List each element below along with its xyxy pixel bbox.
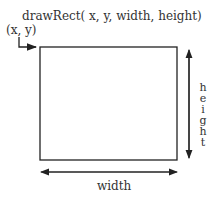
rect-diagram (0, 0, 217, 202)
rectangle (40, 47, 177, 160)
width-label: width (97, 179, 131, 193)
origin-arrow (19, 37, 36, 47)
height-label: h e i g h t (198, 82, 208, 148)
